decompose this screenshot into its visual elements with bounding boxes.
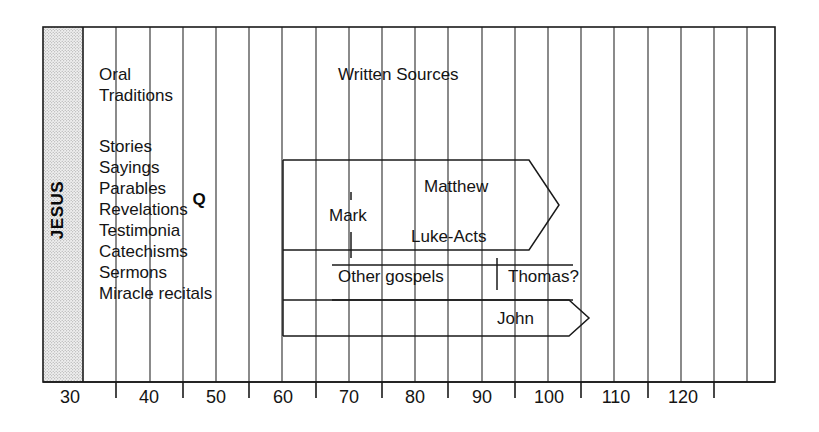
oral-item-sermons: Sermons — [99, 263, 167, 282]
oral-item-miracle-recitals: Miracle recitals — [99, 284, 212, 303]
source-label-john: John — [497, 309, 534, 328]
written-sources-heading: Written Sources — [338, 65, 459, 84]
axis-tick-label-60: 60 — [273, 387, 293, 407]
oral-item-revelations: Revelations — [99, 200, 188, 219]
figure-canvas: JESUS Q Oral Traditions Written Sources … — [0, 0, 819, 432]
axis-tick-label-40: 40 — [139, 387, 159, 407]
q-source-label: Q — [192, 190, 205, 209]
oral-item-parables: Parables — [99, 179, 166, 198]
oral-traditions-line2: Traditions — [99, 86, 173, 105]
axis-tick-label-30: 30 — [60, 387, 80, 407]
oral-item-testimonia: Testimonia — [99, 221, 181, 240]
axis-tick-label-110: 110 — [602, 387, 631, 407]
axis-tick-label-70: 70 — [339, 387, 359, 407]
jesus-band-label: JESUS — [48, 181, 67, 239]
axis-tick-label-90: 90 — [472, 387, 492, 407]
axis-tick-label-50: 50 — [206, 387, 226, 407]
oral-traditions-line1: Oral — [99, 65, 131, 84]
axis-tick-label-80: 80 — [405, 387, 425, 407]
source-label-matthew: Matthew — [424, 177, 489, 196]
oral-item-catechisms: Catechisms — [99, 242, 188, 261]
source-label-thomas: Thomas? — [508, 267, 579, 286]
oral-item-sayings: Sayings — [99, 158, 159, 177]
source-label-mark: Mark — [329, 206, 367, 225]
axis-tick-label-120: 120 — [668, 387, 698, 407]
timeline-diagram: JESUS Q Oral Traditions Written Sources … — [0, 0, 819, 432]
axis-tick-label-100: 100 — [534, 387, 564, 407]
source-label-other-gospels: Other gospels — [338, 267, 444, 286]
source-label-luke-acts: Luke-Acts — [411, 227, 487, 246]
oral-item-stories: Stories — [99, 137, 152, 156]
